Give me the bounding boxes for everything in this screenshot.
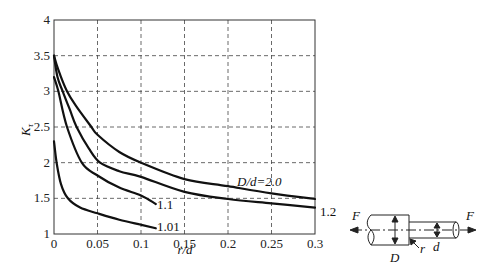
stepped-shaft-diagram xyxy=(350,215,476,248)
curve-label-2-0: D/d=2.0 xyxy=(236,174,282,189)
svg-text:Kτ: Kτ xyxy=(18,123,35,137)
x-axis-label: r/d xyxy=(177,242,193,257)
dimension-D-arrow-bottom xyxy=(392,238,398,244)
x-tick-label: 0.25 xyxy=(260,236,283,251)
dimension-D-arrow-top xyxy=(392,216,398,222)
y-tick-label: 2 xyxy=(44,155,51,170)
large-cylinder-break-inner xyxy=(368,230,371,245)
diameter-label-d: d xyxy=(433,239,440,254)
y-tick-label: 1 xyxy=(44,226,51,241)
x-tick-label: 0.05 xyxy=(86,236,109,251)
y-axis-label: Kτ xyxy=(18,123,35,137)
force-label-right: F xyxy=(465,208,475,223)
y-tick-label: 3 xyxy=(44,83,51,98)
grid-lines xyxy=(54,20,315,234)
y-tick-label: 1.5 xyxy=(34,190,50,205)
curve-label-1-2: 1.2 xyxy=(320,204,336,219)
dimension-d-arrow-top xyxy=(434,223,440,228)
y-tick-label: 3.5 xyxy=(34,48,50,63)
x-tick-label: 0.2 xyxy=(220,236,236,251)
force-label-left: F xyxy=(351,208,361,223)
chart-svg: 00.050.10.150.20.250.3 11.522.533.54 r/d… xyxy=(0,0,499,274)
radius-label-r: r xyxy=(420,241,426,256)
force-arrow-right-icon xyxy=(468,227,476,233)
y-tick-label: 2.5 xyxy=(34,119,50,134)
y-axis-ticks: 11.522.533.54 xyxy=(34,12,51,241)
dimension-d-arrow-bottom xyxy=(434,232,440,237)
force-arrow-left-icon xyxy=(350,227,358,233)
diameter-label-D: D xyxy=(389,250,400,265)
curve-label-1-01: 1.01 xyxy=(157,219,180,234)
curve-d-d-1-01 xyxy=(54,141,156,228)
x-tick-label: 0.3 xyxy=(307,236,323,251)
curve-label-1-1: 1.1 xyxy=(157,197,173,212)
y-tick-label: 4 xyxy=(44,12,51,27)
x-tick-label: 0 xyxy=(51,236,58,251)
x-tick-label: 0.1 xyxy=(133,236,149,251)
